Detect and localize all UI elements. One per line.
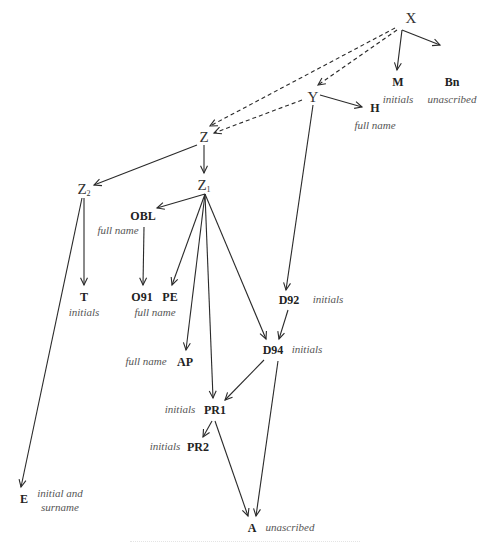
annotation-ap: full name [125,355,166,369]
node-m: M [392,76,403,88]
node-label: T [80,290,88,304]
node-label: Y [308,89,319,105]
node-z: Z [199,130,208,145]
edge-x-to-m [394,30,402,70]
arrowhead-icon [318,78,326,85]
node-subscript: 1 [207,185,211,194]
edge-x-to-z [210,28,395,126]
cropped-caption-line [130,541,360,545]
stemma-edges [0,0,495,548]
node-obl: OBL [130,210,155,222]
node-label: Bn [445,75,460,89]
node-o91: O91 [131,291,152,303]
edge-z2-to-t [81,198,88,285]
stemma-diagram: XMBnYHZZ2Z1OBLTO91PED92APD94PR1PR2EA ini… [0,0,495,548]
node-label: H [370,101,379,115]
edge-z1-to-d94 [205,194,266,339]
node-z1: Z1 [197,178,210,194]
edge-pr1-to-pr2 [203,421,212,437]
node-label: E [20,492,28,506]
node-ap: AP [177,356,193,368]
edge-d94-to-a [254,361,278,516]
node-d92: D92 [279,294,300,306]
node-label: OBL [130,209,155,223]
node-pe: PE [162,291,177,303]
node-label: AP [177,355,193,369]
node-pr1: PR1 [204,404,226,416]
node-a: A [248,522,257,534]
edge-x-to-y [318,30,397,85]
annotation-d92: initials [313,293,344,307]
node-pr2: PR2 [187,441,209,453]
node-subscript: 2 [87,189,91,198]
node-label: M [392,75,403,89]
node-label: Z [197,177,206,193]
edge-z2-to-e [19,198,82,487]
annotation-t: initials [69,306,100,320]
annotation-d94: initials [292,343,323,357]
edge-d92-to-d94 [278,310,288,339]
edge-y-to-h [320,95,362,108]
node-label: PE [162,290,177,304]
edge-z-to-z2 [94,145,197,186]
node-label: D94 [263,343,284,357]
node-h: H [370,102,379,114]
node-e: E [20,493,28,505]
annotation-h: full name [354,119,395,133]
node-label: Z [77,181,86,197]
edge-x-to-bn [402,30,440,46]
node-label: D92 [279,293,300,307]
node-label: PR1 [204,403,226,417]
annotation-o91: full name [134,306,175,320]
annotation-pr1: initials [165,403,196,417]
arrowhead-icon [210,120,218,126]
node-d94: D94 [263,344,284,356]
edge-obl-to-o91 [140,227,147,285]
edge-pr1-to-a [215,421,249,516]
edge-d94-to-pr1 [225,360,264,400]
annotation-e: initial and surname [37,487,83,515]
node-bn: Bn [445,76,460,88]
annotation-obl: full name [97,224,138,238]
annotation-m: initials [383,93,414,107]
node-y: Y [308,90,319,105]
edge-z1-to-ap [183,194,205,350]
edge-z1-to-pr1 [205,194,216,398]
node-label: O91 [131,290,152,304]
node-x: X [406,11,417,26]
annotation-pr2: initials [150,440,181,454]
annotation-bn: unascribed [428,93,477,107]
node-label: Z [199,129,208,145]
edge-z1-to-obl [157,194,205,209]
node-z2: Z2 [77,182,90,198]
annotation-a: unascribed [266,521,315,535]
node-label: A [248,521,257,535]
edge-z-to-z1 [201,145,208,173]
node-label: X [406,10,417,26]
node-t: T [80,291,88,303]
node-label: PR2 [187,440,209,454]
edge-y-to-d92 [284,105,313,290]
